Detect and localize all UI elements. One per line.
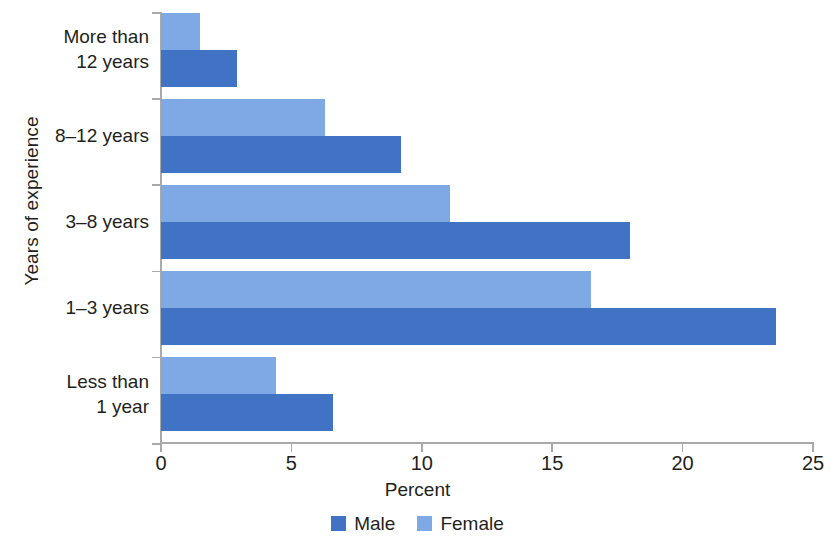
legend-label: Male	[354, 514, 395, 533]
bar-female	[161, 13, 200, 50]
x-axis-tick-label: 15	[522, 452, 582, 475]
y-axis-category-label-line: 8–12 years	[0, 123, 149, 148]
bar-female	[161, 357, 276, 394]
bar-male	[161, 308, 776, 345]
legend: MaleFemale	[0, 514, 835, 533]
y-axis-category-label: 3–8 years	[0, 209, 149, 234]
legend-item[interactable]: Female	[417, 514, 503, 533]
y-axis-tick	[152, 271, 161, 273]
y-axis-tick	[152, 357, 161, 359]
y-axis-tick	[152, 184, 161, 186]
legend-swatch-icon	[417, 516, 432, 531]
y-axis-title: Years of experience	[21, 81, 43, 321]
y-axis-tick	[152, 12, 161, 14]
y-axis-category-label-line: 3–8 years	[0, 209, 149, 234]
bar-group	[161, 99, 813, 173]
bar-male	[161, 222, 630, 259]
x-axis-tick-label: 5	[261, 452, 321, 475]
y-axis-category-label-line: 1–3 years	[0, 295, 149, 320]
bar-female	[161, 271, 591, 308]
x-axis-tick-label: 20	[653, 452, 713, 475]
bar-group	[161, 357, 813, 431]
x-axis-tick-label: 10	[392, 452, 452, 475]
bar-group	[161, 185, 813, 259]
x-axis-tick	[812, 443, 814, 452]
y-axis-category-label-line: More than	[0, 24, 149, 49]
bar-female	[161, 185, 450, 222]
bar-group	[161, 271, 813, 345]
x-axis-tick	[421, 443, 423, 452]
bar-male	[161, 50, 237, 87]
x-axis-tick-label: 0	[131, 452, 191, 475]
y-axis-category-label: 8–12 years	[0, 123, 149, 148]
bar-male	[161, 136, 401, 173]
x-axis-title: Percent	[0, 479, 835, 501]
bar-chart: Years of experience More than12 years8–1…	[0, 0, 835, 545]
plot-area	[161, 12, 813, 443]
x-axis-tick	[551, 443, 553, 452]
x-axis-tick	[291, 443, 293, 452]
y-axis-category-label-line: 12 years	[0, 49, 149, 74]
y-axis-category-label: More than12 years	[0, 24, 149, 74]
y-axis-category-label: Less than1 year	[0, 369, 149, 419]
legend-item[interactable]: Male	[331, 514, 395, 533]
x-axis-tick	[160, 443, 162, 452]
bar-group	[161, 13, 813, 87]
x-axis-tick-label: 25	[783, 452, 835, 475]
y-axis-category-label: 1–3 years	[0, 295, 149, 320]
legend-swatch-icon	[331, 516, 346, 531]
bar-male	[161, 394, 333, 431]
y-axis-tick	[152, 98, 161, 100]
y-axis-category-label-line: 1 year	[0, 394, 149, 419]
x-axis-tick	[682, 443, 684, 452]
bar-female	[161, 99, 325, 136]
y-axis-category-label-line: Less than	[0, 369, 149, 394]
legend-label: Female	[440, 514, 503, 533]
